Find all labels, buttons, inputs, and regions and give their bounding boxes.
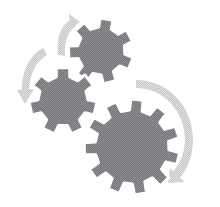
gears-illustration: Three gray cogwheels of different sizes … xyxy=(0,0,220,207)
gears-illustration-svg xyxy=(0,0,220,207)
